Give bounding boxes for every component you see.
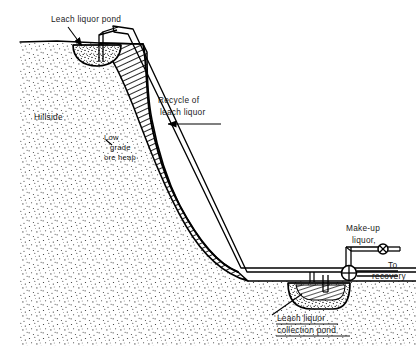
label-hillside: Hillside <box>34 112 63 122</box>
ore-heap-label-line3: ore heap <box>104 153 136 162</box>
hillside-label: Hillside <box>34 112 63 122</box>
to-recovery-label-line2: recovery <box>372 271 406 281</box>
collection-pond-label-line1: Leach liquor <box>277 313 325 323</box>
recycle-label-line2: leach liquor <box>160 107 205 117</box>
leach-liquor-pond-label: Leach liquor pond <box>51 14 121 24</box>
recycle-label-line1: Recycle of <box>158 95 200 105</box>
makeup-liquor-label-line2: liquor, <box>352 235 376 245</box>
label-leach-liquor-pond: Leach liquor pond <box>51 14 121 24</box>
ore-heap-label-line1: Low <box>104 133 119 142</box>
leach-liquor-collection-pond <box>288 283 350 309</box>
makeup-liquor-label-line1: Make-up <box>346 223 380 233</box>
collection-pond-label-line2: collection pond <box>277 325 336 335</box>
ore-heap-label-line2: grade <box>110 143 131 152</box>
heap-leaching-diagram: Leach liquor pond Hillside Low grade ore… <box>0 0 416 346</box>
diagram-canvas: Leach liquor pond Hillside Low grade ore… <box>0 0 416 346</box>
to-recovery-label-line1: To <box>388 260 397 270</box>
